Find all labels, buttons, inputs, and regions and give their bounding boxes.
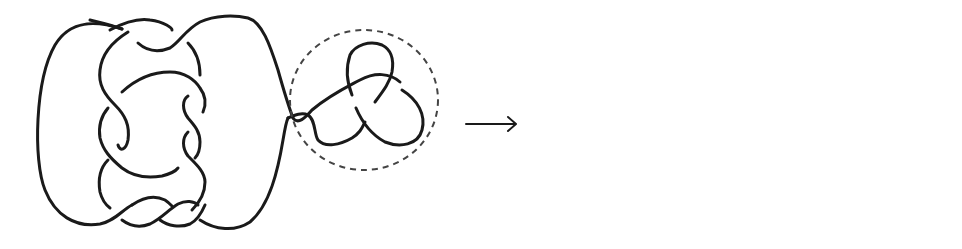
left-knot-body <box>38 16 293 228</box>
transform-arrow <box>466 117 516 131</box>
left-knot-diagram <box>38 16 438 228</box>
figure-canvas: Knot diagram transformation: a knot with… <box>0 0 962 249</box>
